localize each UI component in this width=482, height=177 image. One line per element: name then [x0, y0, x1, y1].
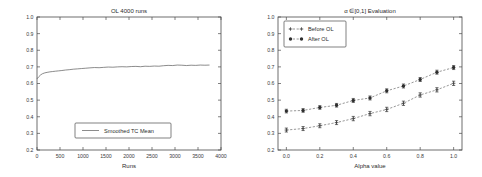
left-chart-svg: OL 4000 runs0500100015002000250030003500…	[0, 0, 241, 177]
y-tick-label: 0.3	[267, 130, 274, 136]
series-after-ol-line	[286, 68, 453, 112]
y-tick-label: 0.5	[26, 97, 33, 103]
y-tick-label: 0.2	[267, 147, 274, 153]
y-tick-label: 1.0	[267, 14, 274, 20]
data-point-marker	[285, 109, 288, 112]
legend-marker-circle-icon	[289, 37, 292, 40]
y-tick-label: 1.0	[26, 14, 33, 20]
chart-ol-4000-runs: OL 4000 runs0500100015002000250030003500…	[0, 0, 241, 177]
data-point-marker	[318, 106, 321, 109]
chart-title: α ∈[0,1] Evaluation	[344, 8, 396, 14]
right-chart-svg: α ∈[0,1] Evaluation0.00.20.40.60.81.0Alp…	[241, 0, 482, 177]
figure-panel: OL 4000 runs0500100015002000250030003500…	[0, 0, 482, 177]
series-smoothed-tc-mean	[37, 65, 210, 79]
x-tick-label: 0.6	[383, 153, 390, 159]
y-tick-label: 0.8	[26, 47, 33, 53]
series-before-ol-line	[286, 83, 453, 130]
x-tick-label: 2500	[146, 153, 158, 159]
y-tick-label: 0.7	[26, 64, 33, 70]
data-point-marker	[418, 78, 421, 81]
x-axis-label: Runs	[122, 163, 136, 169]
x-tick-label: 4000	[215, 153, 227, 159]
x-tick-label: 3500	[192, 153, 204, 159]
x-tick-label: 1500	[100, 153, 112, 159]
y-tick-label: 0.3	[26, 130, 33, 136]
y-tick-label: 0.4	[26, 114, 33, 120]
data-point-marker	[385, 89, 388, 92]
data-point-marker	[368, 96, 371, 99]
x-tick-label: 0	[36, 153, 39, 159]
data-point-marker	[335, 104, 338, 107]
legend-box	[284, 21, 346, 47]
data-point-marker	[301, 109, 304, 112]
y-tick-label: 0.8	[267, 47, 274, 53]
x-tick-label: 1000	[77, 153, 89, 159]
y-tick-label: 0.6	[26, 80, 33, 86]
x-tick-label: 500	[56, 153, 65, 159]
x-tick-label: 0.2	[316, 153, 323, 159]
y-tick-label: 0.2	[26, 147, 33, 153]
x-tick-label: 3000	[169, 153, 181, 159]
chart-alpha-evaluation: α ∈[0,1] Evaluation0.00.20.40.60.81.0Alp…	[241, 0, 482, 177]
x-tick-label: 0.0	[283, 153, 290, 159]
y-tick-label: 0.9	[26, 31, 33, 37]
y-tick-label: 0.9	[267, 31, 274, 37]
x-tick-label: 0.4	[350, 153, 357, 159]
x-axis-label: Alpha value	[354, 163, 386, 169]
y-tick-label: 0.5	[267, 97, 274, 103]
x-tick-label: 0.8	[417, 153, 424, 159]
data-point-marker	[352, 99, 355, 102]
x-tick-label: 2000	[123, 153, 135, 159]
x-tick-label: 1.0	[450, 153, 457, 159]
y-tick-label: 0.4	[267, 114, 274, 120]
legend-label: Before OL	[308, 26, 334, 32]
chart-title: OL 4000 runs	[111, 8, 147, 14]
legend-marker-circle-icon	[300, 37, 303, 40]
y-tick-label: 0.6	[267, 80, 274, 86]
legend-label: Smoothed TC Mean	[104, 128, 154, 134]
y-tick-label: 0.7	[267, 64, 274, 70]
data-point-marker	[435, 70, 438, 73]
legend-label: After OL	[308, 36, 329, 42]
data-point-marker	[402, 84, 405, 87]
data-point-marker	[452, 66, 455, 69]
